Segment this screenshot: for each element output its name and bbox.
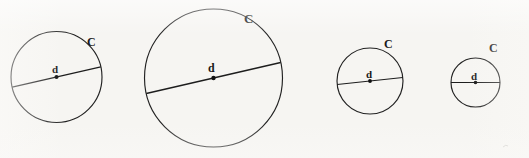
diameter-label-4: d	[471, 71, 477, 82]
circle-group-3	[337, 48, 403, 114]
circles-canvas	[0, 0, 529, 158]
circumference-label-3: C	[384, 38, 393, 50]
circumference-label-1: C	[87, 36, 96, 48]
circle-group-4	[451, 58, 500, 107]
center-dot-1	[55, 75, 59, 79]
circle-group-2	[145, 9, 283, 147]
diameter-label-3: d	[366, 69, 372, 80]
circumference-label-2: C	[244, 12, 253, 25]
paper-speck	[503, 145, 508, 147]
diameter-label-2: d	[208, 62, 215, 74]
center-dot-2	[211, 76, 215, 80]
circumference-label-4: C	[489, 42, 498, 54]
diameter-label-1: d	[52, 64, 58, 75]
circle-diagram-figure: d C d C d C d C	[0, 0, 529, 158]
